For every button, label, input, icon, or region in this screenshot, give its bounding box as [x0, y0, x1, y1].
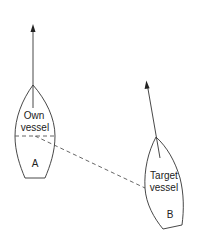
bearing-line: [35, 136, 145, 188]
target-vessel-letter: B: [167, 209, 174, 220]
own-vessel-label-line2: vessel: [21, 122, 49, 133]
own-vessel: Own vessel A: [15, 24, 55, 178]
target-vessel-arrowhead-icon: [145, 81, 150, 90]
own-vessel-label-line1: Own: [24, 110, 45, 121]
own-vessel-letter: A: [32, 158, 39, 169]
target-vessel-label-line1: Target: [150, 170, 178, 181]
own-vessel-arrowhead-icon: [31, 24, 36, 32]
target-vessel-label-line2: vessel: [150, 182, 178, 193]
target-vessel: Target vessel B: [145, 81, 184, 230]
target-vessel-heading-arrow-icon: [148, 86, 161, 158]
vessel-encounter-diagram: Own vessel A Target vessel B: [0, 0, 199, 243]
